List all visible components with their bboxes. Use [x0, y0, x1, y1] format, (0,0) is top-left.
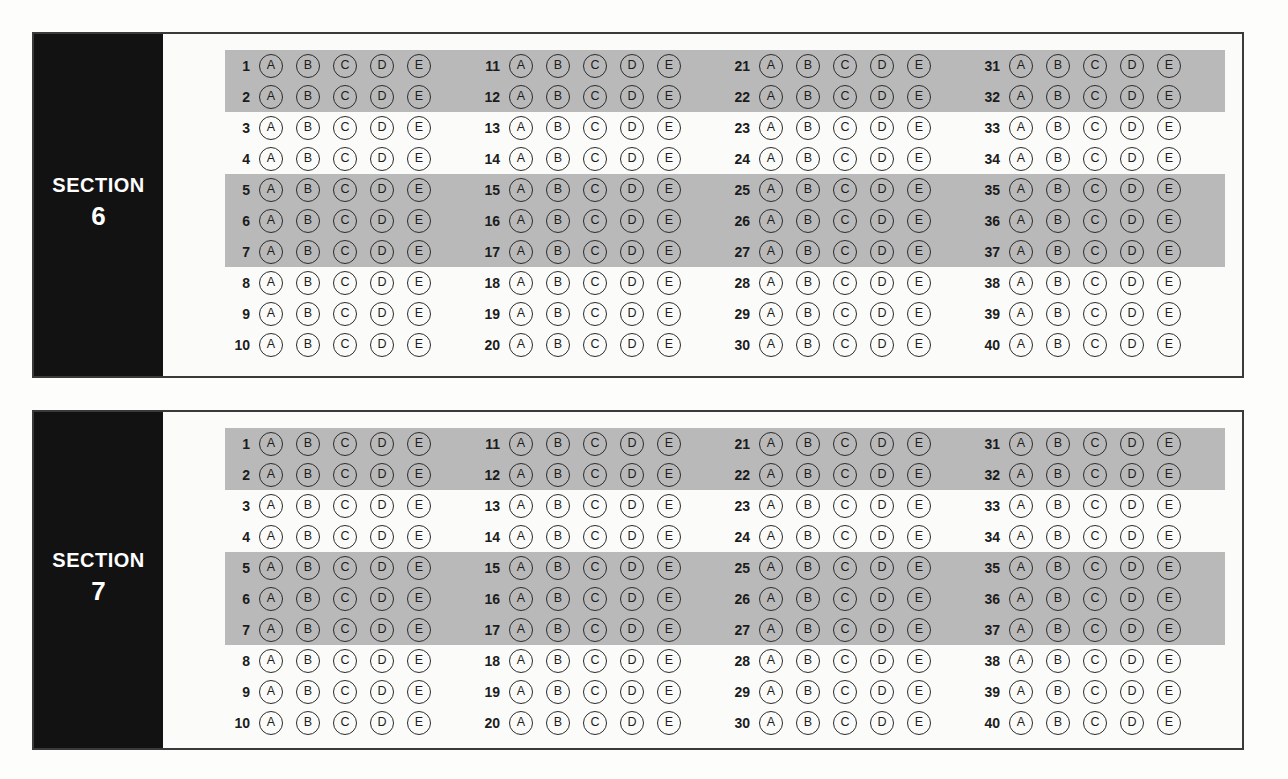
answer-bubble-c[interactable]: C — [1083, 54, 1107, 78]
answer-bubble-b[interactable]: B — [546, 587, 570, 611]
answer-bubble-e[interactable]: E — [907, 209, 931, 233]
answer-bubble-e[interactable]: E — [907, 302, 931, 326]
answer-bubble-a[interactable]: A — [509, 302, 533, 326]
answer-bubble-e[interactable]: E — [1157, 178, 1181, 202]
answer-bubble-b[interactable]: B — [1046, 271, 1070, 295]
answer-bubble-b[interactable]: B — [796, 85, 820, 109]
answer-bubble-a[interactable]: A — [759, 711, 783, 735]
answer-bubble-e[interactable]: E — [907, 525, 931, 549]
answer-bubble-c[interactable]: C — [1083, 240, 1107, 264]
answer-bubble-e[interactable]: E — [657, 271, 681, 295]
answer-bubble-a[interactable]: A — [509, 333, 533, 357]
answer-bubble-d[interactable]: D — [870, 494, 894, 518]
answer-bubble-e[interactable]: E — [657, 649, 681, 673]
answer-bubble-b[interactable]: B — [296, 556, 320, 580]
answer-bubble-a[interactable]: A — [759, 271, 783, 295]
answer-bubble-d[interactable]: D — [1120, 209, 1144, 233]
answer-bubble-e[interactable]: E — [657, 178, 681, 202]
answer-bubble-a[interactable]: A — [759, 209, 783, 233]
answer-bubble-a[interactable]: A — [1009, 463, 1033, 487]
answer-bubble-e[interactable]: E — [407, 147, 431, 171]
answer-bubble-c[interactable]: C — [583, 240, 607, 264]
answer-bubble-c[interactable]: C — [1083, 178, 1107, 202]
answer-bubble-d[interactable]: D — [870, 271, 894, 295]
answer-bubble-e[interactable]: E — [907, 587, 931, 611]
answer-bubble-e[interactable]: E — [657, 463, 681, 487]
answer-bubble-e[interactable]: E — [1157, 85, 1181, 109]
answer-bubble-b[interactable]: B — [796, 432, 820, 456]
answer-bubble-b[interactable]: B — [1046, 618, 1070, 642]
answer-bubble-b[interactable]: B — [546, 649, 570, 673]
answer-bubble-b[interactable]: B — [296, 302, 320, 326]
answer-bubble-e[interactable]: E — [907, 271, 931, 295]
answer-bubble-c[interactable]: C — [583, 178, 607, 202]
answer-bubble-c[interactable]: C — [583, 54, 607, 78]
answer-bubble-b[interactable]: B — [296, 432, 320, 456]
answer-bubble-c[interactable]: C — [333, 680, 357, 704]
answer-bubble-a[interactable]: A — [1009, 178, 1033, 202]
answer-bubble-d[interactable]: D — [1120, 302, 1144, 326]
answer-bubble-c[interactable]: C — [833, 54, 857, 78]
answer-bubble-b[interactable]: B — [546, 556, 570, 580]
answer-bubble-c[interactable]: C — [1083, 556, 1107, 580]
answer-bubble-a[interactable]: A — [509, 209, 533, 233]
answer-bubble-b[interactable]: B — [546, 333, 570, 357]
answer-bubble-b[interactable]: B — [546, 85, 570, 109]
answer-bubble-d[interactable]: D — [370, 147, 394, 171]
answer-bubble-c[interactable]: C — [1083, 494, 1107, 518]
answer-bubble-c[interactable]: C — [1083, 209, 1107, 233]
answer-bubble-b[interactable]: B — [1046, 432, 1070, 456]
answer-bubble-a[interactable]: A — [759, 494, 783, 518]
answer-bubble-b[interactable]: B — [296, 240, 320, 264]
answer-bubble-e[interactable]: E — [407, 178, 431, 202]
answer-bubble-c[interactable]: C — [583, 209, 607, 233]
answer-bubble-b[interactable]: B — [296, 85, 320, 109]
answer-bubble-a[interactable]: A — [1009, 271, 1033, 295]
answer-bubble-a[interactable]: A — [509, 711, 533, 735]
answer-bubble-c[interactable]: C — [1083, 333, 1107, 357]
answer-bubble-e[interactable]: E — [907, 680, 931, 704]
answer-bubble-a[interactable]: A — [1009, 618, 1033, 642]
answer-bubble-a[interactable]: A — [509, 85, 533, 109]
answer-bubble-b[interactable]: B — [546, 680, 570, 704]
answer-bubble-a[interactable]: A — [759, 54, 783, 78]
answer-bubble-e[interactable]: E — [407, 463, 431, 487]
answer-bubble-c[interactable]: C — [1083, 147, 1107, 171]
answer-bubble-d[interactable]: D — [870, 711, 894, 735]
answer-bubble-a[interactable]: A — [509, 54, 533, 78]
answer-bubble-e[interactable]: E — [907, 649, 931, 673]
answer-bubble-a[interactable]: A — [259, 209, 283, 233]
answer-bubble-d[interactable]: D — [370, 525, 394, 549]
answer-bubble-b[interactable]: B — [546, 271, 570, 295]
answer-bubble-c[interactable]: C — [583, 271, 607, 295]
answer-bubble-d[interactable]: D — [1120, 463, 1144, 487]
answer-bubble-a[interactable]: A — [759, 587, 783, 611]
answer-bubble-b[interactable]: B — [1046, 85, 1070, 109]
answer-bubble-e[interactable]: E — [1157, 618, 1181, 642]
answer-bubble-c[interactable]: C — [833, 333, 857, 357]
answer-bubble-c[interactable]: C — [583, 432, 607, 456]
answer-bubble-a[interactable]: A — [509, 116, 533, 140]
answer-bubble-d[interactable]: D — [370, 711, 394, 735]
answer-bubble-a[interactable]: A — [259, 271, 283, 295]
answer-bubble-c[interactable]: C — [833, 525, 857, 549]
answer-bubble-d[interactable]: D — [620, 494, 644, 518]
answer-bubble-e[interactable]: E — [1157, 147, 1181, 171]
answer-bubble-e[interactable]: E — [657, 54, 681, 78]
answer-bubble-e[interactable]: E — [1157, 271, 1181, 295]
answer-bubble-d[interactable]: D — [1120, 54, 1144, 78]
answer-bubble-a[interactable]: A — [1009, 147, 1033, 171]
answer-bubble-b[interactable]: B — [296, 147, 320, 171]
answer-bubble-d[interactable]: D — [870, 333, 894, 357]
answer-bubble-e[interactable]: E — [1157, 432, 1181, 456]
answer-bubble-e[interactable]: E — [657, 432, 681, 456]
answer-bubble-a[interactable]: A — [759, 680, 783, 704]
answer-bubble-d[interactable]: D — [620, 711, 644, 735]
answer-bubble-c[interactable]: C — [333, 209, 357, 233]
answer-bubble-e[interactable]: E — [407, 432, 431, 456]
answer-bubble-d[interactable]: D — [370, 209, 394, 233]
answer-bubble-b[interactable]: B — [796, 649, 820, 673]
answer-bubble-c[interactable]: C — [333, 333, 357, 357]
answer-bubble-d[interactable]: D — [870, 680, 894, 704]
answer-bubble-a[interactable]: A — [759, 649, 783, 673]
